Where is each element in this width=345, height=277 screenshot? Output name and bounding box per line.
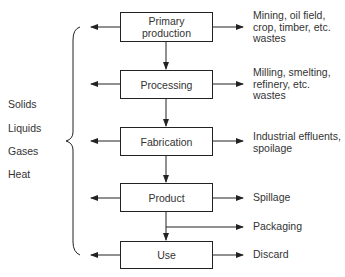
output-use: Discard bbox=[253, 249, 289, 261]
waste-type-gases: Gases bbox=[8, 145, 38, 157]
output-fabrication: Industrial effluents, spoilage bbox=[253, 131, 341, 154]
stage-primary-production: Primary production bbox=[120, 12, 213, 42]
output-packaging: Packaging bbox=[253, 221, 302, 233]
waste-type-solids: Solids bbox=[8, 98, 37, 110]
stage-use: Use bbox=[120, 241, 213, 269]
output-product: Spillage bbox=[253, 192, 290, 204]
waste-type-liquids: Liquids bbox=[8, 122, 41, 134]
output-primary-production: Mining, oil field, crop, timber, etc. wa… bbox=[253, 10, 331, 45]
stage-processing: Processing bbox=[120, 70, 213, 99]
stage-product: Product bbox=[120, 183, 213, 212]
output-processing: Milling, smelting, refinery, etc. wastes bbox=[253, 67, 331, 102]
waste-type-heat: Heat bbox=[8, 168, 30, 180]
stage-fabrication: Fabrication bbox=[120, 127, 213, 156]
